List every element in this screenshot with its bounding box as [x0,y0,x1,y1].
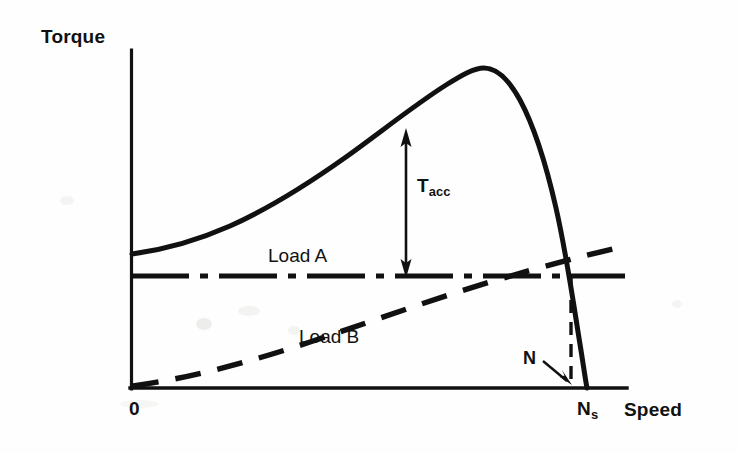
synchronous-speed-base: N [577,398,591,419]
load-b-curve [133,246,626,386]
torque-speed-plot [0,0,740,453]
y-axis-label: Torque [41,27,105,46]
synchronous-speed-label: Ns [577,399,598,418]
motor-torque-curve [132,68,587,388]
operating-point-label: N [523,349,536,367]
accelerating-torque-subscript: acc [429,184,451,199]
operating-point-callout-arrow [543,361,572,385]
origin-label: 0 [129,399,140,418]
load-a-label: Load A [268,246,327,265]
accelerating-torque-base: T [417,175,429,196]
accelerating-torque-arrow [401,128,412,278]
synchronous-speed-subscript: s [591,407,598,422]
load-b-label: Load B [299,327,359,346]
figure-canvas: Torque Speed 0 Ns N Tacc Load A Load B [0,0,740,453]
x-axis-label: Speed [624,400,682,419]
accelerating-torque-label: Tacc [417,176,450,195]
